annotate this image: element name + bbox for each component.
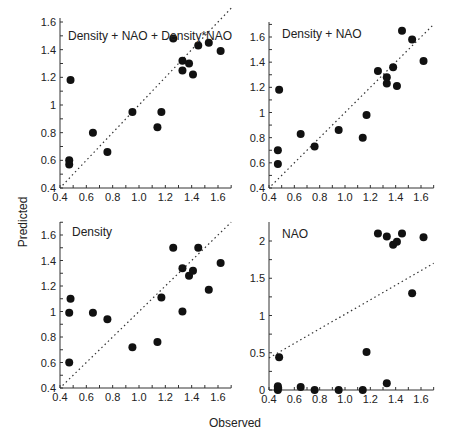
data-point xyxy=(374,230,382,238)
y-tick-label: 0.8 xyxy=(41,127,56,139)
data-point xyxy=(275,353,283,361)
data-point xyxy=(65,359,73,367)
data-point xyxy=(398,230,406,238)
data-point xyxy=(408,289,416,297)
y-tick-label: 1.4 xyxy=(41,255,56,267)
data-point xyxy=(393,238,401,246)
x-tick-label: 1.2 xyxy=(363,393,378,405)
x-tick-label: 1.2 xyxy=(363,191,378,203)
reference-line xyxy=(272,24,434,185)
data-point xyxy=(178,308,186,316)
y-tick-label: 0.4 xyxy=(250,182,265,194)
y-tick-label: 0.4 xyxy=(41,382,56,394)
y-tick-label: 1.2 xyxy=(41,280,56,292)
data-point xyxy=(128,108,136,116)
y-tick-label: 1 xyxy=(50,306,56,318)
data-point xyxy=(275,86,283,94)
data-point xyxy=(153,338,161,346)
data-point xyxy=(65,309,73,317)
data-point xyxy=(408,36,416,44)
data-point xyxy=(363,111,371,119)
data-point xyxy=(157,293,165,301)
data-point xyxy=(335,126,343,134)
y-axis-label: Predicted xyxy=(16,197,30,248)
y-tick-label: 1 xyxy=(50,99,56,111)
figure: 0.40.60.81.01.21.41.60.40.60.811.21.41.6… xyxy=(0,0,449,443)
data-point xyxy=(311,386,319,394)
data-point xyxy=(311,142,319,150)
panel-title: NAO xyxy=(282,227,308,241)
y-tick-label: 0.5 xyxy=(250,347,265,359)
x-tick-label: 0.8 xyxy=(312,393,327,405)
panel-title: Density xyxy=(72,225,112,239)
data-point xyxy=(359,386,367,394)
x-tick-label: 1.2 xyxy=(158,191,173,203)
data-point xyxy=(398,27,406,35)
x-tick-label: 1.4 xyxy=(184,191,199,203)
data-point xyxy=(274,160,282,168)
x-tick-label: 0.8 xyxy=(105,191,120,203)
x-tick-label: 0.8 xyxy=(105,391,120,403)
x-axis-label: Observed xyxy=(209,416,261,430)
y-tick-label: 0.6 xyxy=(41,357,56,369)
x-tick-label: 0.6 xyxy=(79,191,94,203)
y-tick-label: 0.4 xyxy=(41,182,56,194)
data-point xyxy=(89,309,97,317)
data-point xyxy=(189,267,197,275)
x-tick-label: 0.6 xyxy=(287,393,302,405)
data-point xyxy=(383,73,391,81)
y-tick-label: 1 xyxy=(259,310,265,322)
x-tick-label: 1.0 xyxy=(337,393,352,405)
reference-line xyxy=(63,222,232,385)
data-point xyxy=(169,244,177,252)
data-point xyxy=(128,343,136,351)
data-point xyxy=(363,348,371,356)
data-point xyxy=(383,379,391,387)
data-point xyxy=(153,123,161,131)
data-point xyxy=(89,129,97,137)
scatter-panel-3: 0.40.60.81.01.21.41.60.40.60.811.21.41.6… xyxy=(41,222,231,403)
y-tick-label: 1.4 xyxy=(41,44,56,56)
data-point xyxy=(103,315,111,323)
x-tick-label: 1.4 xyxy=(388,393,403,405)
x-tick-label: 1.6 xyxy=(413,393,428,405)
y-tick-label: 1.2 xyxy=(41,71,56,83)
y-tick-label: 0.8 xyxy=(250,132,265,144)
x-tick-label: 1.2 xyxy=(158,391,173,403)
panel-title: Density + NAO xyxy=(282,27,362,41)
y-tick-label: 1.4 xyxy=(250,56,265,68)
y-tick-label: 0.8 xyxy=(41,331,56,343)
y-tick-label: 0 xyxy=(259,384,265,396)
data-point xyxy=(335,386,343,394)
x-tick-label: 0.8 xyxy=(312,191,327,203)
panel-title: Density + NAO + Density*NAO xyxy=(68,29,232,43)
y-tick-label: 1.2 xyxy=(250,81,265,93)
data-point xyxy=(297,383,305,391)
scatter-panel-4: 0.40.60.81.01.21.41.600.511.52NAO xyxy=(250,222,434,405)
data-point xyxy=(393,82,401,90)
scatter-panel-1: 0.40.60.81.01.21.41.60.40.60.811.21.41.6… xyxy=(41,8,232,203)
x-tick-label: 1.4 xyxy=(388,191,403,203)
x-tick-label: 0.6 xyxy=(287,191,302,203)
y-tick-label: 1.6 xyxy=(41,16,56,28)
y-tick-label: 2 xyxy=(259,235,265,247)
y-tick-label: 0.6 xyxy=(250,157,265,169)
data-point xyxy=(420,57,428,65)
reference-line xyxy=(269,263,434,358)
data-point xyxy=(65,156,73,164)
y-tick-label: 1.6 xyxy=(250,31,265,43)
data-point xyxy=(67,76,75,84)
y-tick-label: 1.5 xyxy=(250,272,265,284)
data-point xyxy=(420,233,428,241)
x-tick-label: 1.0 xyxy=(131,391,146,403)
scatter-panel-2: 0.40.60.81.01.21.41.60.40.60.811.21.41.6… xyxy=(250,22,434,203)
data-point xyxy=(205,286,213,294)
data-point xyxy=(178,66,186,74)
data-point xyxy=(217,259,225,267)
data-point xyxy=(374,67,382,75)
data-point xyxy=(185,60,193,68)
x-tick-label: 1.0 xyxy=(337,191,352,203)
data-point xyxy=(389,63,397,71)
data-point xyxy=(383,233,391,241)
x-tick-label: 1.6 xyxy=(210,391,225,403)
